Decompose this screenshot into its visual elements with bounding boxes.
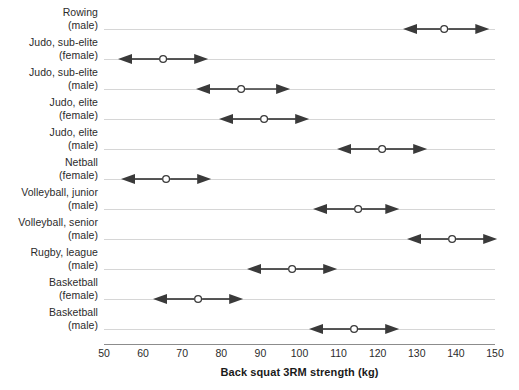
- category-label-line2: (male): [0, 259, 98, 272]
- x-axis-tick-labels: 5060708090100110120130140150: [104, 347, 495, 363]
- category-label-line1: Judo, elite: [0, 96, 98, 109]
- x-axis-tick-130: 130: [408, 347, 426, 359]
- category-label-line1: Judo, sub-elite: [0, 66, 98, 79]
- arrowhead-left-icon: [121, 174, 135, 184]
- mean-marker-circle: [237, 86, 244, 93]
- chart-container: Rowing(male)Judo, sub-elite(female)Judo,…: [0, 0, 519, 390]
- arrowhead-left-icon: [407, 234, 421, 244]
- arrowhead-right-icon: [413, 144, 427, 154]
- arrowhead-left-icon: [118, 54, 132, 64]
- category-label: Judo, sub-elite(female): [0, 36, 98, 62]
- x-axis-tick-90: 90: [255, 347, 267, 359]
- row-gridline: [104, 89, 495, 90]
- category-label-line1: Netball: [0, 156, 98, 169]
- category-label-line2: (male): [0, 139, 98, 152]
- arrowhead-left-icon: [313, 204, 327, 214]
- row-gridline: [104, 209, 495, 210]
- range-marker: [194, 81, 292, 97]
- arrowhead-left-icon: [403, 24, 417, 34]
- mean-marker-circle: [441, 26, 448, 33]
- mean-marker-circle: [261, 116, 268, 123]
- x-axis-tick-70: 70: [176, 347, 188, 359]
- arrowhead-left-icon: [309, 324, 323, 334]
- category-label: Rugby, league(male): [0, 246, 98, 272]
- category-label-line1: Rowing: [0, 6, 98, 19]
- category-label-line1: Basketball: [0, 306, 98, 319]
- mean-marker-circle: [351, 326, 358, 333]
- range-marker: [151, 291, 245, 307]
- arrowhead-right-icon: [229, 294, 243, 304]
- category-label: Judo, elite(male): [0, 126, 98, 152]
- category-label-line2: (male): [0, 229, 98, 242]
- category-label-line1: Basketball: [0, 276, 98, 289]
- arrowhead-left-icon: [196, 84, 210, 94]
- arrowhead-right-icon: [198, 174, 212, 184]
- x-axis-tick-60: 60: [137, 347, 149, 359]
- arrowhead-right-icon: [276, 84, 290, 94]
- range-marker: [307, 321, 401, 337]
- mean-marker-circle: [159, 56, 166, 63]
- range-marker: [116, 51, 210, 67]
- mean-marker-circle: [449, 236, 456, 243]
- x-axis-tick-110: 110: [330, 347, 347, 359]
- category-label-line1: Volleyball, junior: [0, 186, 98, 199]
- category-label-line2: (female): [0, 49, 98, 62]
- x-axis-tick-80: 80: [215, 347, 227, 359]
- x-axis-tick-120: 120: [369, 347, 387, 359]
- category-label: Judo, elite(female): [0, 96, 98, 122]
- arrowhead-left-icon: [219, 114, 233, 124]
- category-label-line2: (male): [0, 19, 98, 32]
- category-label-line1: Volleyball, senior: [0, 216, 98, 229]
- category-label-line1: Judo, sub-elite: [0, 36, 98, 49]
- range-marker: [311, 201, 401, 217]
- row-gridline: [104, 329, 495, 330]
- arrowhead-right-icon: [475, 24, 489, 34]
- range-marker: [405, 231, 499, 247]
- range-marker: [245, 261, 339, 277]
- arrowhead-right-icon: [385, 204, 399, 214]
- x-axis-line: [104, 344, 495, 345]
- x-axis-tick-140: 140: [447, 347, 465, 359]
- category-label: Netball(female): [0, 156, 98, 182]
- mean-marker-circle: [194, 296, 201, 303]
- mean-marker-circle: [378, 146, 385, 153]
- category-label: Rowing(male): [0, 6, 98, 32]
- range-marker: [119, 171, 213, 187]
- arrowhead-right-icon: [295, 114, 309, 124]
- arrowhead-left-icon: [336, 144, 350, 154]
- category-label-line2: (female): [0, 289, 98, 302]
- category-label-line2: (male): [0, 319, 98, 332]
- arrowhead-left-icon: [247, 264, 261, 274]
- arrowhead-right-icon: [194, 54, 208, 64]
- category-label-line2: (male): [0, 199, 98, 212]
- arrowhead-left-icon: [153, 294, 167, 304]
- range-marker: [401, 21, 491, 37]
- category-label-line2: (female): [0, 169, 98, 182]
- category-label-line2: (female): [0, 109, 98, 122]
- category-label-line2: (male): [0, 79, 98, 92]
- x-axis-tick-50: 50: [98, 347, 110, 359]
- arrowhead-right-icon: [483, 234, 497, 244]
- range-marker: [335, 141, 429, 157]
- category-label: Volleyball, senior(male): [0, 216, 98, 242]
- mean-marker-circle: [288, 266, 295, 273]
- x-axis-tick-100: 100: [291, 347, 309, 359]
- category-label: Basketball(female): [0, 276, 98, 302]
- arrowhead-right-icon: [323, 264, 337, 274]
- row-gridline: [104, 149, 495, 150]
- range-marker: [217, 111, 311, 127]
- category-label-line1: Judo, elite: [0, 126, 98, 139]
- mean-marker-circle: [163, 176, 170, 183]
- category-label-line1: Rugby, league: [0, 246, 98, 259]
- mean-marker-circle: [355, 206, 362, 213]
- arrowhead-right-icon: [385, 324, 399, 334]
- x-axis-tick-150: 150: [486, 347, 504, 359]
- category-label: Judo, sub-elite(male): [0, 66, 98, 92]
- category-label: Volleyball, junior(male): [0, 186, 98, 212]
- x-axis-title: Back squat 3RM strength (kg): [104, 366, 495, 378]
- category-label: Basketball(male): [0, 306, 98, 332]
